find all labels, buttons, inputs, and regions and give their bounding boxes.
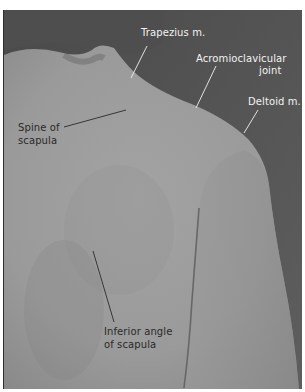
label-acromioclavicular-line2: joint	[259, 65, 281, 76]
label-spine-of-scapula-line1: Spine of	[18, 122, 60, 133]
label-acromioclavicular-line1: Acromioclavicular	[196, 53, 286, 64]
label-trapezius: Trapezius m.	[141, 27, 205, 38]
spine-shading	[24, 240, 104, 380]
label-deltoid: Deltoid m.	[248, 96, 301, 107]
label-spine-of-scapula-line2: scapula	[18, 135, 57, 146]
label-inferior-angle-line1: Inferior angle	[104, 326, 172, 337]
label-inferior-angle-line2: of scapula	[104, 339, 156, 350]
